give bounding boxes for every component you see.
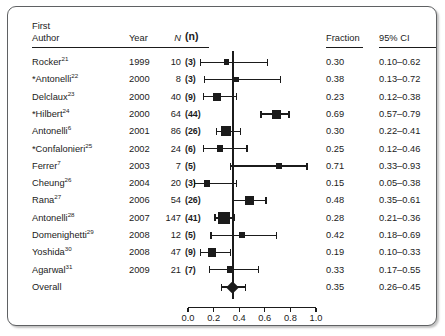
x-axis-tick: [264, 308, 265, 312]
confidence-interval-line: [221, 286, 245, 287]
confidence-interval-cap-upper: [245, 284, 246, 291]
confidence-interval-cap-lower: [210, 232, 211, 239]
study-event-n: (3): [185, 74, 209, 85]
confidence-interval-line: [215, 217, 234, 218]
confidence-interval-line: [203, 148, 247, 149]
study-year: 2000: [129, 74, 155, 85]
study-fraction: 0.19: [326, 247, 366, 258]
study-author: Yoshida30: [32, 247, 72, 258]
study-year: 2001: [129, 126, 155, 137]
study-ci: 0.05–0.38: [379, 178, 437, 189]
study-estimate-marker: [227, 266, 234, 273]
study-event-n: (44): [185, 109, 209, 120]
study-author: Rana27: [32, 195, 61, 206]
study-event-n: (3): [185, 178, 209, 189]
study-ci: 0.10–0.62: [379, 57, 437, 68]
study-total-n: 54: [162, 195, 181, 206]
study-author: Rocker21: [32, 57, 68, 68]
study-event-n: (7): [185, 265, 209, 276]
confidence-interval-cap-upper: [246, 145, 247, 152]
study-ci: 0.33–0.93: [379, 161, 437, 172]
header-rule-ci: [379, 47, 436, 48]
header-confidence-interval: 95% CI: [379, 33, 437, 44]
confidence-interval-cap-lower: [230, 163, 231, 170]
x-axis-tick: [213, 308, 214, 312]
confidence-interval-cap-upper: [280, 76, 281, 83]
study-year: 2009: [129, 265, 155, 276]
study-year: 2000: [129, 92, 155, 103]
study-estimate-marker: [221, 126, 231, 136]
confidence-interval-line: [261, 113, 289, 114]
confidence-interval-cap-upper: [265, 197, 266, 204]
header-first-author-line2: Author: [32, 33, 59, 44]
study-event-n: (26): [185, 195, 209, 206]
study-year: 2007: [129, 213, 155, 224]
overall-ci: 0.26–0.45: [379, 282, 437, 293]
study-total-n: 64: [162, 109, 181, 120]
header-rule-left: [32, 47, 209, 48]
confidence-interval-cap-upper: [258, 266, 259, 273]
study-total-n: 10: [162, 57, 181, 68]
overall-fraction: 0.35: [326, 282, 366, 293]
study-total-n: 40: [162, 92, 181, 103]
confidence-interval-cap-upper: [306, 163, 307, 170]
confidence-interval-line: [211, 235, 276, 236]
study-total-n: 86: [162, 126, 181, 137]
study-estimate-marker: [272, 110, 281, 119]
study-year: 2004: [129, 178, 155, 189]
confidence-interval-line: [233, 200, 266, 201]
study-fraction: 0.15: [326, 178, 366, 189]
study-author: *Hilbert24: [32, 109, 69, 120]
confidence-interval-cap-upper: [240, 128, 241, 135]
study-ci: 0.35–0.61: [379, 195, 437, 206]
study-fraction: 0.28: [326, 213, 366, 224]
study-event-n: (26): [185, 126, 209, 137]
confidence-interval-line: [216, 131, 240, 132]
study-estimate-marker: [218, 212, 230, 224]
header-rule-fraction: [326, 47, 363, 48]
confidence-interval-cap-upper: [288, 111, 289, 118]
x-axis-tick: [239, 308, 240, 312]
header-total-n: N: [162, 33, 181, 44]
study-estimate-marker: [276, 163, 281, 168]
study-fraction: 0.69: [326, 109, 366, 120]
pooled-reference-line: [232, 51, 234, 299]
study-ci: 0.21–0.36: [379, 213, 437, 224]
study-estimate-marker: [234, 77, 239, 82]
pooled-estimate-diamond: [226, 281, 239, 294]
study-estimate-marker: [245, 196, 254, 205]
forest-plot-area: [8, 7, 437, 326]
study-estimate-marker: [224, 59, 230, 65]
header-year: Year: [129, 33, 155, 44]
study-fraction: 0.42: [326, 230, 366, 241]
confidence-interval-cap-upper: [233, 214, 234, 221]
study-total-n: 24: [162, 144, 181, 155]
study-total-n: 20: [162, 178, 181, 189]
study-year: 2003: [129, 161, 155, 172]
forest-plot-figure: First Author Year N (n) Fraction 95% CI …: [7, 6, 437, 326]
study-author: *Antonelli22: [32, 74, 78, 85]
study-author: *Confalonieri25: [32, 144, 92, 155]
study-event-n: (41): [185, 213, 209, 224]
study-estimate-marker: [239, 232, 245, 238]
study-event-n: (5): [185, 230, 209, 241]
study-estimate-marker: [213, 93, 221, 101]
confidence-interval-line: [201, 62, 268, 63]
x-axis-tick: [187, 308, 188, 312]
study-ci: 0.18–0.69: [379, 230, 437, 241]
x-axis-tick: [290, 308, 291, 312]
study-author: Antonelli28: [32, 213, 75, 224]
x-axis-tick-label: 1.0: [301, 313, 331, 323]
study-year: 1999: [129, 57, 155, 68]
study-year: 2000: [129, 109, 155, 120]
study-event-n: (5): [185, 161, 209, 172]
study-fraction: 0.30: [326, 126, 366, 137]
study-event-n: (9): [185, 247, 209, 258]
confidence-interval-cap-upper: [230, 249, 231, 256]
study-event-n: (6): [185, 144, 209, 155]
x-axis-tick: [315, 308, 316, 312]
study-fraction: 0.48: [326, 195, 366, 206]
study-total-n: 7: [162, 161, 181, 172]
study-fraction: 0.38: [326, 74, 366, 85]
study-author: Ferrer7: [32, 161, 61, 172]
